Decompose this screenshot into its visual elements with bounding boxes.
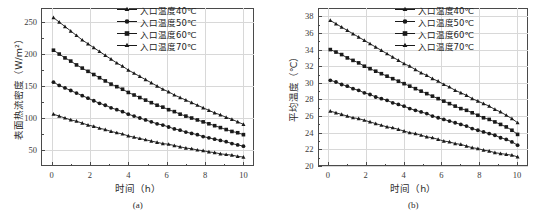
y-tick — [318, 83, 322, 84]
x-tick-minor — [186, 164, 187, 167]
square-marker — [407, 84, 411, 88]
square-marker — [447, 102, 451, 106]
square-marker — [213, 124, 217, 128]
x-tick — [366, 162, 367, 166]
legend-label: 入口温度50℃ — [418, 16, 474, 28]
circle-marker — [242, 144, 246, 148]
legend-item: 入口温度50℃ — [394, 16, 474, 27]
square-marker — [86, 70, 90, 74]
circle-marker — [475, 128, 479, 132]
square-marker — [419, 89, 423, 93]
circle-marker — [334, 80, 338, 84]
triangle-up-marker — [373, 45, 377, 49]
panel-caption-a: (a) — [0, 200, 276, 210]
square-marker — [224, 128, 228, 132]
legend-item: 入口温度70℃ — [394, 40, 474, 51]
y-tick-label: 20 — [292, 161, 314, 171]
square-marker — [132, 93, 136, 97]
legend-label: 入口温度50℃ — [140, 16, 196, 28]
circle-marker — [402, 104, 406, 108]
circle-marker — [515, 143, 519, 147]
square-marker — [459, 107, 463, 111]
x-tick-label: 8 — [477, 170, 481, 180]
circle-marker — [458, 123, 462, 127]
circle-marker — [126, 112, 130, 116]
y-tick-minor — [41, 38, 44, 39]
y-tick — [318, 16, 322, 17]
x-tick-label: 8 — [203, 170, 207, 180]
square-marker — [385, 74, 389, 78]
data-series — [52, 48, 246, 136]
triangle-up-marker-icon — [394, 5, 416, 14]
y-tick — [41, 118, 45, 119]
square-marker — [150, 101, 154, 105]
square-marker — [63, 56, 67, 60]
x-tick — [479, 162, 480, 166]
triangle-up-marker — [402, 62, 406, 66]
triangle-up-marker — [155, 84, 159, 88]
triangle-up-marker — [98, 49, 102, 53]
circle-marker — [328, 78, 332, 82]
square-marker — [57, 52, 61, 56]
square-marker — [334, 50, 338, 54]
y-axis-title-a: 表面热流密度（W/m²） — [11, 27, 25, 147]
square-marker — [487, 118, 491, 122]
data-series — [51, 112, 245, 159]
circle-marker — [339, 83, 343, 87]
legend-item: 入口温度50℃ — [116, 16, 196, 27]
circle-marker — [236, 143, 240, 147]
square-marker — [504, 125, 508, 129]
circle-marker — [80, 94, 84, 98]
circle-marker — [362, 91, 366, 95]
circle-marker — [487, 132, 491, 136]
circle-marker — [184, 130, 188, 134]
circle-marker — [390, 101, 394, 105]
circle-marker — [149, 120, 153, 124]
legend-label: 入口温度40℃ — [140, 4, 196, 16]
square-marker — [356, 61, 360, 65]
circle-marker — [115, 108, 119, 112]
circle-marker — [407, 107, 411, 111]
square-marker — [442, 99, 446, 103]
y-tick-minor — [318, 141, 321, 142]
triangle-up-marker — [144, 78, 148, 82]
panel-caption-b: (b) — [276, 200, 551, 210]
legend-label: 入口温度70℃ — [418, 40, 474, 52]
square-marker — [109, 82, 113, 86]
y-tick-minor — [318, 91, 321, 92]
circle-marker — [498, 136, 502, 140]
square-marker — [167, 108, 171, 112]
x-tick-minor — [460, 164, 461, 167]
triangle-up-marker — [413, 67, 417, 71]
triangle-up-marker-icon — [394, 41, 416, 50]
square-marker — [345, 56, 349, 60]
circle-marker-icon — [394, 17, 416, 26]
circle-marker — [356, 88, 360, 92]
circle-marker — [213, 137, 217, 141]
square-marker — [75, 63, 79, 67]
x-tick — [328, 162, 329, 166]
circle-marker — [419, 110, 423, 114]
y-tick — [318, 116, 322, 117]
square-marker — [493, 120, 497, 124]
triangle-up-marker — [379, 48, 383, 52]
y-tick-minor — [318, 25, 321, 26]
legend-label: 入口温度60℃ — [140, 28, 196, 40]
triangle-up-marker — [92, 46, 96, 50]
square-marker — [121, 87, 125, 91]
triangle-up-marker — [362, 38, 366, 42]
y-tick — [41, 22, 45, 23]
x-tick-label: 2 — [88, 170, 92, 180]
y-tick — [318, 50, 322, 51]
triangle-up-marker — [430, 77, 434, 81]
square-marker — [103, 79, 107, 83]
circle-marker — [424, 112, 428, 116]
x-tick-label: 10 — [239, 170, 248, 180]
circle-marker — [510, 140, 514, 144]
x-tick-minor — [224, 164, 225, 167]
x-tick-label: 4 — [401, 170, 405, 180]
y-tick-minor — [41, 70, 44, 71]
square-marker — [207, 122, 211, 126]
triangle-up-marker — [492, 107, 496, 111]
circle-marker — [345, 84, 349, 88]
